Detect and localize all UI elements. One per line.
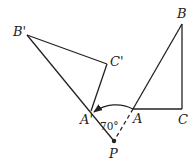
label-b: B [176,6,187,21]
label-c: C [178,112,188,127]
label-a: A [132,111,142,126]
label-b-prime: B' [12,24,26,39]
segment-a-b [133,24,182,109]
label-p: P [108,146,118,161]
rotation-diagram: B' C' A' A B C P 70° [0,0,196,163]
label-a-prime: A' [79,112,93,127]
segment-c_prime-a_prime [91,64,107,111]
label-c-prime: C' [110,54,124,69]
rotation-arc [94,105,133,112]
point-p-dot [112,139,116,143]
angle-label-70-degrees: 70° [100,120,119,132]
